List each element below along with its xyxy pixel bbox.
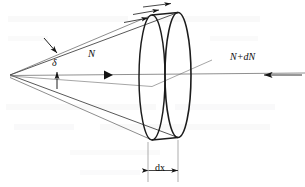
cone-axis (10, 73, 305, 76)
cone-edges (10, 13, 212, 141)
background-ghost-text (6, 16, 275, 175)
disc-element (139, 13, 191, 141)
flux-out-label: N+dN (230, 52, 255, 62)
dx-dimension (148, 140, 178, 182)
dx-label: dx (155, 163, 165, 173)
flux-in-label: N (88, 49, 95, 60)
ray-tube-diagram (0, 0, 305, 187)
flux-in-arrow (104, 71, 113, 80)
delta-angle-label: δ (52, 58, 57, 68)
